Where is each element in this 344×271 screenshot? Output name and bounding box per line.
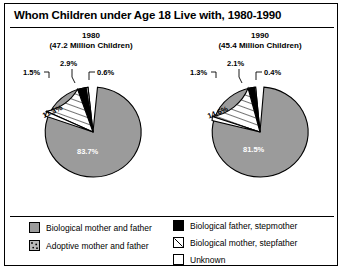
legend-divider bbox=[10, 216, 334, 217]
slice-label-1980-main: 83.7% bbox=[77, 147, 98, 156]
legend-label-adoptive-parents: Adoptive mother and father bbox=[46, 241, 149, 251]
legend-label-unknown: Unknown bbox=[190, 255, 225, 265]
pie-svg-1980 bbox=[33, 78, 153, 186]
panel-subtitle-1990: (45.4 Million Children) bbox=[180, 41, 340, 51]
legend-item-mother-stepfather: Biological mother, stepfather bbox=[173, 237, 297, 248]
panel-subtitle-1980: (47.2 Million Children) bbox=[11, 41, 171, 51]
legend-item-biological-parents: Biological mother and father bbox=[29, 222, 152, 233]
panel-year-1980: 1980 bbox=[11, 31, 171, 41]
legend-item-adoptive-parents: Adoptive mother and father bbox=[29, 240, 149, 251]
slice-label-1990-main: 81.5% bbox=[243, 145, 264, 154]
legend-swatch-white-icon bbox=[173, 254, 184, 265]
panel-year-1990: 1990 bbox=[180, 31, 340, 41]
title-divider bbox=[10, 27, 334, 28]
chart-frame: Whom Children under Age 18 Live with, 19… bbox=[4, 3, 338, 266]
legend-swatch-solid-black-icon bbox=[173, 220, 184, 231]
callout-1990-left: 1.3% bbox=[190, 68, 207, 77]
pie-chart-1980 bbox=[33, 78, 153, 186]
callout-1980-right: 0.6% bbox=[97, 68, 114, 77]
chart-title: Whom Children under Age 18 Live with, 19… bbox=[14, 9, 281, 21]
legend-label-mother-stepfather: Biological mother, stepfather bbox=[190, 238, 297, 248]
legend-swatch-dotted-gray-icon bbox=[29, 240, 40, 251]
pie-slices-1990 bbox=[212, 87, 308, 177]
legend-label-father-stepmother: Biological father, stepmother bbox=[190, 221, 297, 231]
legend-swatch-solid-gray-icon bbox=[29, 222, 40, 233]
callout-1980-left: 1.5% bbox=[23, 68, 40, 77]
pie-chart-1990 bbox=[200, 78, 320, 186]
pie-svg-1990 bbox=[200, 78, 320, 186]
legend-label-biological-parents: Biological mother and father bbox=[46, 223, 152, 233]
panel-header-1990: 1990 (45.4 Million Children) bbox=[180, 31, 340, 51]
legend-item-father-stepmother: Biological father, stepmother bbox=[173, 220, 297, 231]
callout-1990-right: 0.4% bbox=[264, 68, 281, 77]
legend-swatch-diagonal-hatch-icon bbox=[173, 237, 184, 248]
panel-header-1980: 1980 (47.2 Million Children) bbox=[11, 31, 171, 51]
pie-slices-1980 bbox=[45, 87, 141, 177]
callout-1980-top: 2.9% bbox=[60, 59, 77, 68]
callout-1990-top: 2.1% bbox=[227, 59, 244, 68]
legend-item-unknown: Unknown bbox=[173, 254, 225, 265]
